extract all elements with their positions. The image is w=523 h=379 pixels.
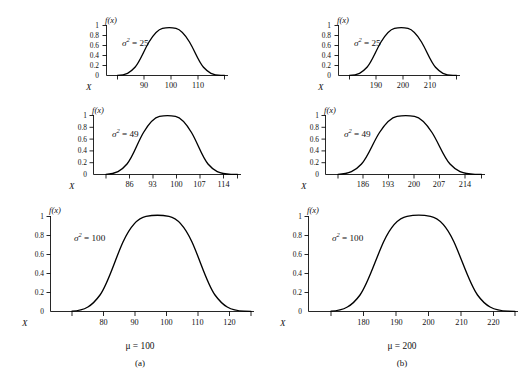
y-tick-1: 1 (282, 213, 302, 220)
x-tick-b2-1: 193 (375, 181, 401, 189)
y-tick-0.8: 0.8 (299, 124, 319, 131)
normal-distribution-figure: f(x) σ2 = 25 X 1 0.8 0.6 0. (0, 0, 523, 379)
x-tick-b2-0: 186 (350, 181, 376, 189)
normal-curve-b2 (338, 116, 482, 175)
y-ticks (103, 26, 107, 66)
y-ticks (335, 26, 339, 66)
x-axis-label: X (69, 182, 75, 191)
plot-b3 (280, 206, 523, 336)
variance-annotation-a3: σ2 = 100 (74, 232, 105, 243)
normal-curve-b3 (331, 215, 515, 311)
x-ticks (350, 76, 457, 80)
x-tick-b2-2: 200 (401, 181, 427, 189)
y-tick-0.6: 0.6 (24, 251, 44, 258)
y-tick-0.4: 0.4 (81, 52, 99, 59)
x-tick-a3-2: 100 (155, 319, 178, 327)
panel-b-sigma100: f(x) σ2 = 100 X 1 (280, 206, 523, 376)
y-tick-1: 1 (24, 213, 44, 220)
x-tick-a2-2: 100 (165, 181, 188, 189)
x-tick-a2-1: 93 (141, 181, 164, 189)
mean-label-b: μ = 200 (362, 342, 442, 351)
y-axis-label: f(x) (92, 106, 104, 115)
y-axis-label: f(x) (324, 106, 336, 115)
y-tick-0.6: 0.6 (282, 251, 302, 258)
y-tick-0.4: 0.4 (299, 147, 319, 154)
x-tick-b3-3: 210 (448, 319, 475, 327)
y-axis-label: f(x) (49, 206, 61, 215)
x-tick-a2-3: 107 (188, 181, 211, 189)
y-tick-0.8: 0.8 (81, 32, 99, 39)
y-tick-0.2: 0.2 (299, 159, 319, 166)
y-tick-1: 1 (313, 22, 331, 29)
y-tick-0: 0 (81, 72, 99, 79)
variance-value-b1: 25 (372, 38, 381, 48)
x-tick-a2-0: 86 (118, 181, 141, 189)
y-tick-0.8: 0.8 (67, 124, 87, 131)
x-ticks (331, 312, 515, 317)
variance-value-a1: 25 (140, 38, 149, 48)
y-tick-0: 0 (67, 171, 87, 178)
y-ticks (90, 116, 94, 163)
y-ticks (305, 217, 309, 293)
x-tick-a3-1: 90 (123, 319, 146, 327)
x-tick-a1-0: 90 (132, 82, 156, 90)
y-tick-0: 0 (24, 308, 44, 315)
mean-label-a: μ = 100 (100, 342, 180, 351)
variance-annotation-b3: σ2 = 100 (332, 232, 363, 243)
panel-b-sigma25: f(x) σ2 = 25 X 1 0.8 0.6 0. (318, 16, 468, 94)
plot-a3 (22, 206, 260, 336)
x-tick-b1-1: 200 (389, 82, 417, 90)
y-tick-1: 1 (81, 22, 99, 29)
y-tick-0.4: 0.4 (282, 270, 302, 277)
x-ticks (118, 76, 225, 80)
y-axis-label: f(x) (307, 206, 319, 215)
y-tick-0.2: 0.2 (81, 62, 99, 69)
y-ticks (322, 116, 326, 163)
y-tick-0.2: 0.2 (24, 289, 44, 296)
panel-b-sigma49: f(x) σ2 = 49 X 1 (301, 106, 491, 194)
y-tick-0.2: 0.2 (67, 159, 87, 166)
x-tick-a1-2: 110 (186, 82, 210, 90)
x-axis-label: X (280, 319, 286, 328)
y-tick-1: 1 (67, 112, 87, 119)
panel-a-sigma49: f(x) σ2 = 49 X 1 (69, 106, 249, 194)
x-tick-b1-2: 210 (416, 82, 444, 90)
variance-annotation-a2: σ2 = 49 (112, 128, 139, 139)
panel-a-sigma25: f(x) σ2 = 25 X 1 0.8 0.6 0. (86, 16, 236, 94)
x-tick-a2-4: 114 (212, 181, 235, 189)
x-axis-label: X (86, 83, 92, 92)
x-tick-a1-1: 100 (159, 82, 183, 90)
y-tick-0: 0 (313, 72, 331, 79)
subfigure-caption-b: (b) (362, 359, 442, 368)
panel-a-sigma100: f(x) σ2 = 100 X 1 (22, 206, 260, 376)
y-tick-0.6: 0.6 (81, 42, 99, 49)
x-tick-b3-4: 220 (480, 319, 507, 327)
normal-curve-a1 (118, 28, 225, 76)
x-ticks (338, 175, 482, 179)
normal-curve-b1 (350, 28, 457, 76)
y-tick-0: 0 (282, 308, 302, 315)
y-tick-0.8: 0.8 (24, 232, 44, 239)
x-tick-b3-1: 190 (383, 319, 410, 327)
normal-curve-a2 (106, 116, 238, 175)
y-tick-0.6: 0.6 (299, 136, 319, 143)
x-tick-a3-3: 110 (186, 319, 209, 327)
y-tick-0.4: 0.4 (67, 147, 87, 154)
y-tick-0: 0 (299, 171, 319, 178)
variance-annotation-b2: σ2 = 49 (344, 128, 371, 139)
y-tick-1: 1 (299, 112, 319, 119)
variance-annotation-a1: σ2 = 25 (122, 37, 149, 48)
x-axis-label: X (318, 83, 324, 92)
y-axis-label: f(x) (337, 16, 349, 25)
x-axis-label: X (22, 319, 28, 328)
x-tick-b2-3: 207 (426, 181, 452, 189)
variance-value-a3: 100 (92, 233, 106, 243)
y-tick-0.2: 0.2 (313, 62, 331, 69)
variance-value-a2: 49 (130, 129, 139, 139)
y-tick-0.8: 0.8 (313, 32, 331, 39)
x-tick-b2-4: 214 (452, 181, 478, 189)
y-tick-0.4: 0.4 (313, 52, 331, 59)
subfigure-caption-a: (a) (100, 359, 180, 368)
y-tick-0.8: 0.8 (282, 232, 302, 239)
y-tick-0.6: 0.6 (67, 136, 87, 143)
